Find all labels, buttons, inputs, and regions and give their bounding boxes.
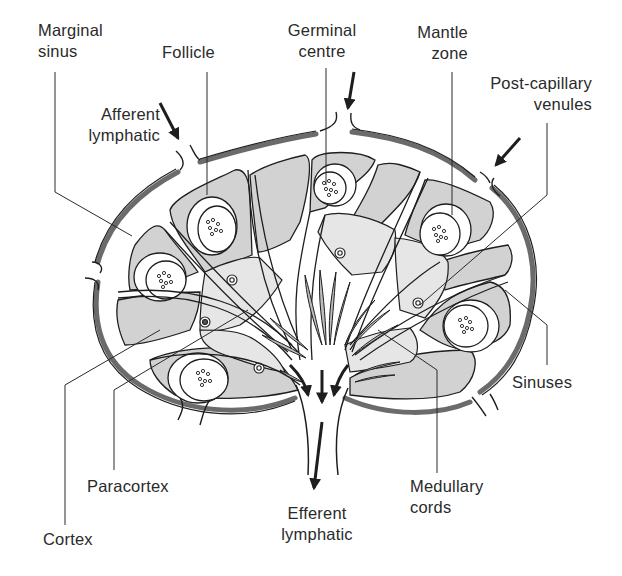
label-line: zone bbox=[384, 43, 468, 64]
follicle-6 bbox=[168, 353, 228, 403]
label-line: Medullary bbox=[410, 476, 483, 497]
follicle-5 bbox=[443, 300, 499, 352]
label-line: Follicle bbox=[162, 42, 215, 63]
label-line: centre bbox=[262, 41, 382, 62]
label-line: Marginal bbox=[38, 20, 103, 41]
label-line: Germinal bbox=[262, 20, 382, 41]
label-line: sinus bbox=[38, 41, 103, 62]
label-line: Efferent bbox=[262, 503, 372, 524]
label-marginal-sinus: Marginal sinus bbox=[38, 20, 103, 62]
label-post-capillary-venules: Post-capillary venules bbox=[450, 73, 592, 115]
label-line: Sinuses bbox=[512, 372, 572, 393]
label-medullary-cords: Medullary cords bbox=[410, 476, 483, 518]
afferent-arrow-right bbox=[496, 138, 520, 165]
label-line: Mantle bbox=[384, 22, 468, 43]
label-line: Post-capillary bbox=[450, 73, 592, 94]
label-afferent-lymphatic: Afferent lymphatic bbox=[60, 104, 160, 146]
label-paracortex: Paracortex bbox=[87, 476, 169, 497]
label-germinal-centre: Germinal centre bbox=[262, 20, 382, 62]
label-line: cords bbox=[410, 497, 483, 518]
label-follicle: Follicle bbox=[162, 42, 215, 63]
efferent-arrow-out bbox=[314, 422, 322, 488]
label-cortex: Cortex bbox=[43, 529, 93, 550]
label-line: lymphatic bbox=[60, 125, 160, 146]
label-line: venules bbox=[450, 94, 592, 115]
label-line: Afferent bbox=[60, 104, 160, 125]
label-line: Paracortex bbox=[87, 476, 169, 497]
label-line: lymphatic bbox=[262, 524, 372, 545]
follicle-1 bbox=[187, 197, 237, 255]
label-sinuses: Sinuses bbox=[512, 372, 572, 393]
label-efferent-lymphatic: Efferent lymphatic bbox=[262, 503, 372, 545]
afferent-arrow-top bbox=[348, 72, 354, 108]
label-line: Cortex bbox=[43, 529, 93, 550]
afferent-arrow-left bbox=[160, 103, 178, 138]
label-mantle-zone: Mantle zone bbox=[384, 22, 468, 64]
